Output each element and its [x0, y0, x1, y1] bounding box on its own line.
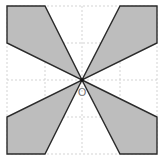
geometry-figure: O: [0, 0, 163, 167]
bottom-left-petal: [7, 80, 82, 154]
origin-label: O: [78, 86, 87, 99]
top-left-petal: [7, 6, 82, 80]
top-right-petal: [82, 6, 157, 80]
center-point: [80, 78, 84, 82]
bottom-right-petal: [82, 80, 157, 154]
figure-canvas: O: [0, 0, 163, 167]
